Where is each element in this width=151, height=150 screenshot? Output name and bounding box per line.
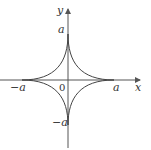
y-axis-label: y (56, 4, 64, 17)
tick-label-y-negative: −a (52, 116, 68, 129)
tick-label-x-negative: −a (10, 81, 26, 94)
tick-label-x-positive: a (113, 81, 120, 94)
x-axis-label: x (135, 81, 142, 94)
astroid-diagram: y x 0 a −a a −a (0, 0, 151, 150)
origin-label: 0 (59, 82, 65, 93)
tick-label-y-positive: a (58, 23, 65, 36)
